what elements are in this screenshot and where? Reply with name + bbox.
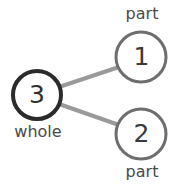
connector-whole-to-part-1 bbox=[59, 67, 119, 87]
connector-whole-to-part-2 bbox=[59, 104, 119, 125]
part-2-value: 2 bbox=[115, 121, 168, 146]
whole-label: whole bbox=[0, 124, 76, 140]
part-1-label: part bbox=[113, 6, 171, 22]
part-1-value: 1 bbox=[115, 44, 168, 69]
part-2-label: part bbox=[113, 164, 171, 180]
number-bond-diagram: 3 whole 1 part 2 part bbox=[0, 0, 179, 191]
whole-value: 3 bbox=[11, 82, 63, 107]
